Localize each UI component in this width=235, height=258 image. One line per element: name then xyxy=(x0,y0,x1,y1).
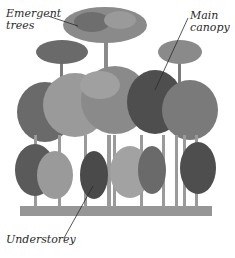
ground xyxy=(20,206,212,216)
emergent-tree-large xyxy=(63,7,147,75)
rainforest-illustration xyxy=(0,0,235,258)
main-canopy xyxy=(17,66,218,142)
